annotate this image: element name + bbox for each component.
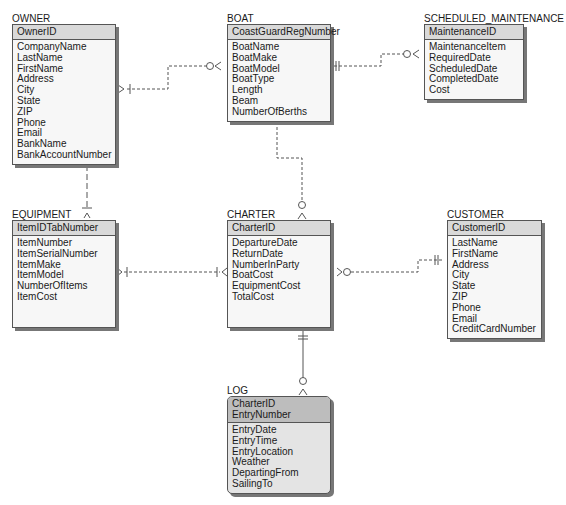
primary-key: CharterID: [228, 221, 330, 236]
attribute: ItemSerialNumber: [17, 249, 111, 260]
attribute: ReturnDate: [232, 249, 326, 260]
key-field: CustomerID: [452, 222, 537, 233]
entity-scheduled-maintenance[interactable]: SCHEDULED_MAINTENANCE MaintenanceID Main…: [424, 13, 524, 100]
entity-customer[interactable]: CUSTOMER CustomerID LastName FirstName A…: [447, 209, 542, 339]
relationship-owner-boat: [118, 62, 221, 94]
relationship-boat-scheduled-maintenance: [334, 50, 419, 71]
entity-boat[interactable]: BOAT CoastGuardRegNumber BoatName BoatMa…: [227, 13, 331, 122]
attribute: BoatMake: [232, 53, 326, 64]
attribute: LastName: [17, 53, 111, 64]
relationship-boat-charter: [272, 112, 306, 219]
primary-key: CustomerID: [448, 221, 541, 236]
entity-name: EQUIPMENT: [12, 209, 116, 220]
entity-box: CharterID DepartureDate ReturnDate Numbe…: [227, 220, 331, 328]
key-field: MaintenanceID: [429, 26, 519, 37]
attribute: SailingTo: [232, 479, 326, 490]
key-field: CoastGuardRegNumber: [232, 26, 326, 37]
attribute-list: CompanyName LastName FirstName Address C…: [13, 40, 115, 164]
entity-box: ItemIDTabNumber ItemNumber ItemSerialNum…: [12, 220, 116, 328]
entity-name: OWNER: [12, 13, 116, 24]
key-field: ItemIDTabNumber: [17, 222, 111, 233]
attribute-list: LastName FirstName Address City State ZI…: [448, 236, 541, 338]
attribute: Phone: [452, 303, 537, 314]
entity-charter[interactable]: CHARTER CharterID DepartureDate ReturnDa…: [227, 209, 331, 328]
entity-name: LOG: [227, 385, 331, 396]
entity-box: OwnerID CompanyName LastName FirstName A…: [12, 24, 116, 165]
attribute: ItemCost: [17, 292, 111, 303]
attribute: BankAccountNumber: [17, 150, 111, 161]
entity-name: SCHEDULED_MAINTENANCE: [424, 13, 524, 24]
entity-equipment[interactable]: EQUIPMENT ItemIDTabNumber ItemNumber Ite…: [12, 209, 116, 328]
key-field: EntryNumber: [232, 409, 326, 420]
attribute: ZIP: [17, 107, 111, 118]
key-field: OwnerID: [17, 26, 111, 37]
key-field: CharterID: [232, 398, 326, 409]
primary-key: ItemIDTabNumber: [13, 221, 115, 236]
entity-name: CHARTER: [227, 209, 331, 220]
attribute-list: DepartureDate ReturnDate NumberInParty B…: [228, 236, 330, 306]
attribute: EntryTime: [232, 436, 326, 447]
relationship-charter-customer: [337, 255, 443, 276]
attribute: FirstName: [452, 249, 537, 260]
entity-name: BOAT: [227, 13, 331, 24]
attribute: Cost: [429, 85, 519, 96]
primary-key: OwnerID: [13, 25, 115, 40]
entity-box: CustomerID LastName FirstName Address Ci…: [447, 220, 542, 339]
key-field: CharterID: [232, 222, 326, 233]
entity-box: CoastGuardRegNumber BoatName BoatMake Bo…: [227, 24, 331, 122]
entity-name: CUSTOMER: [447, 209, 542, 220]
attribute: RequiredDate: [429, 53, 519, 64]
primary-key: MaintenanceID: [425, 25, 523, 40]
entity-box: CharterID EntryNumber EntryDate EntryTim…: [227, 396, 331, 494]
attribute-list: MaintenanceItem RequiredDate ScheduledDa…: [425, 40, 523, 99]
relationship-equipment-charter: [117, 267, 227, 277]
attribute-list: EntryDate EntryTime EntryLocation Weathe…: [228, 423, 330, 493]
attribute-list: ItemNumber ItemSerialNumber ItemMake Ite…: [13, 236, 115, 306]
entity-log[interactable]: LOG CharterID EntryNumber EntryDate Entr…: [227, 385, 331, 494]
primary-key: CharterID EntryNumber: [228, 397, 330, 423]
attribute: CreditCardNumber: [452, 324, 537, 335]
attribute: NumberOfBerths: [232, 107, 326, 118]
primary-key: CoastGuardRegNumber: [228, 25, 330, 40]
entity-owner[interactable]: OWNER OwnerID CompanyName LastName First…: [12, 13, 116, 165]
attribute: TotalCost: [232, 292, 326, 303]
attribute-list: BoatName BoatMake BoatModel BoatType Len…: [228, 40, 330, 121]
entity-box: MaintenanceID MaintenanceItem RequiredDa…: [424, 24, 524, 100]
